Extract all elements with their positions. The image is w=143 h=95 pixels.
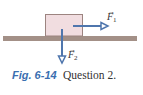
figure-caption-text: Question 2. [63,69,116,81]
figure-canvas: →F1 →F2 Fig. 6-14 Question 2. [0,0,143,95]
force-f1-label: →F1 [107,12,117,23]
ground-surface [3,36,137,41]
figure-number-label: Fig. 6-14 [12,69,57,81]
force-f2-label: →F2 [68,50,78,61]
